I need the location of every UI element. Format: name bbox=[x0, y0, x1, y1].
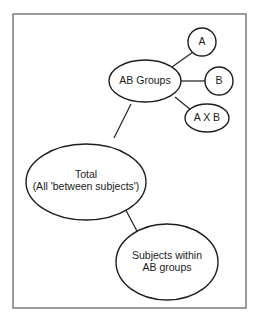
node-axb-label: A X B bbox=[194, 111, 220, 123]
node-b-label: B bbox=[215, 74, 222, 86]
node-subjects: Subjects within AB groups bbox=[116, 224, 218, 300]
node-axb: A X B bbox=[185, 104, 229, 132]
node-subjects-label-line2: AB groups bbox=[142, 261, 191, 273]
node-ab-groups-label: AB Groups bbox=[119, 74, 170, 86]
node-subjects-label-line1: Subjects within bbox=[132, 249, 202, 261]
edge-total-to-ab bbox=[114, 104, 131, 138]
edge-ab-to-axb bbox=[175, 97, 191, 110]
node-b: B bbox=[205, 67, 233, 95]
node-a-label: A bbox=[198, 35, 205, 47]
node-total-label-line2: (All 'between subjects') bbox=[33, 180, 140, 192]
edge-ab-to-a bbox=[172, 52, 193, 67]
node-total-label-line1: Total bbox=[75, 168, 97, 180]
node-total: Total (All 'between subjects') bbox=[26, 144, 146, 220]
node-ab-groups: AB Groups bbox=[109, 60, 181, 102]
node-a: A bbox=[188, 28, 216, 56]
partition-diagram: A B A X B AB Groups Total (All 'between … bbox=[0, 0, 259, 324]
